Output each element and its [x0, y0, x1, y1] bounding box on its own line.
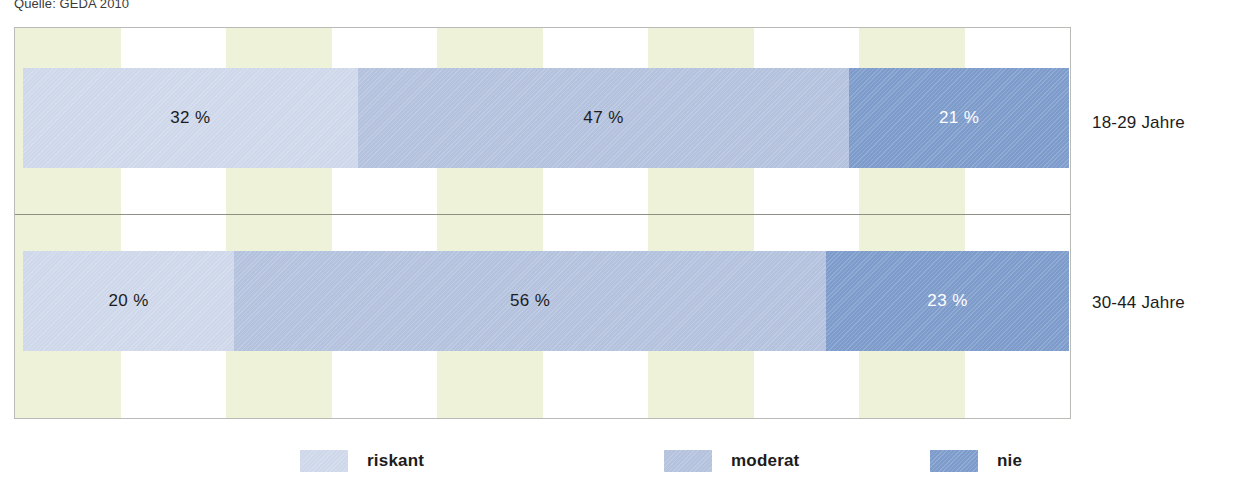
- bar-segment-riskant: 32 %: [23, 68, 358, 168]
- chart-legend: riskant moderat nie: [0, 448, 1251, 478]
- legend-swatch-icon: [300, 450, 348, 472]
- paper-texture: [664, 450, 712, 472]
- stacked-bar-row: 20 %56 %23 %: [23, 251, 1069, 351]
- source-note: Quelle: GEDA 2010: [14, 0, 129, 11]
- legend-item-moderat[interactable]: moderat: [664, 448, 799, 474]
- bar-value-label: 20 %: [108, 291, 148, 311]
- legend-label: nie: [997, 451, 1022, 471]
- bar-segment-moderat: 56 %: [234, 251, 826, 351]
- bar-value-label: 21 %: [939, 108, 979, 128]
- stacked-bar-row: 32 %47 %21 %: [23, 68, 1069, 168]
- bar-segment-moderat: 47 %: [358, 68, 850, 168]
- bar-value-label: 32 %: [170, 108, 210, 128]
- group-divider: [15, 214, 1070, 215]
- category-label-30-44: 30-44 Jahre: [1092, 293, 1185, 313]
- legend-label: riskant: [367, 451, 424, 471]
- paper-texture: [300, 450, 348, 472]
- bar-value-label: 23 %: [927, 291, 967, 311]
- bar-value-label: 47 %: [583, 108, 623, 128]
- paper-texture: [930, 450, 978, 472]
- bar-segment-nie: 21 %: [849, 68, 1069, 168]
- legend-swatch-icon: [664, 450, 712, 472]
- bar-segment-riskant: 20 %: [23, 251, 234, 351]
- legend-swatch-icon: [930, 450, 978, 472]
- legend-item-riskant[interactable]: riskant: [300, 448, 424, 474]
- chart-plot-area: 32 %47 %21 % 20 %56 %23 %: [14, 27, 1071, 419]
- legend-label: moderat: [731, 451, 799, 471]
- category-label-18-29: 18-29 Jahre: [1092, 113, 1185, 133]
- bar-value-label: 56 %: [510, 291, 550, 311]
- legend-item-nie[interactable]: nie: [930, 448, 1022, 474]
- bar-segment-nie: 23 %: [826, 251, 1069, 351]
